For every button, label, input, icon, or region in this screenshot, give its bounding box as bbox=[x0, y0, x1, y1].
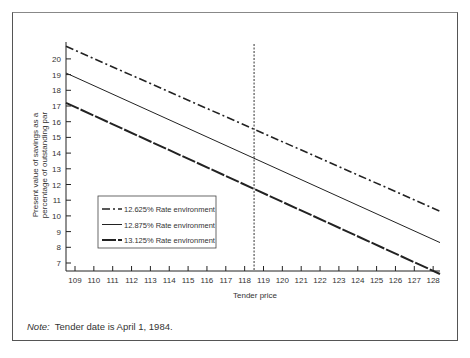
y-tick-label: 8 bbox=[57, 243, 62, 252]
x-tick-label: 115 bbox=[182, 276, 195, 285]
y-tick-label: 9 bbox=[57, 228, 62, 237]
x-tick-label: 118 bbox=[238, 276, 251, 285]
legend-label: 13.125% Rate environment bbox=[124, 236, 216, 245]
x-tick-label: 124 bbox=[351, 276, 365, 285]
y-axis-label: Present value of savings as a bbox=[31, 112, 40, 217]
x-tick-label: 114 bbox=[163, 276, 176, 285]
y-tick-label: 10 bbox=[52, 212, 61, 221]
y-tick-label: 19 bbox=[52, 71, 61, 80]
x-tick-label: 119 bbox=[257, 276, 270, 285]
x-tick-label: 116 bbox=[201, 276, 214, 285]
y-tick-label: 7 bbox=[57, 259, 62, 268]
x-tick-label: 123 bbox=[332, 276, 346, 285]
x-tick-label: 110 bbox=[87, 276, 100, 285]
note-label: Note: bbox=[27, 321, 50, 332]
x-tick-label: 112 bbox=[125, 276, 138, 285]
x-tick-label: 127 bbox=[408, 276, 422, 285]
x-axis-label: Tender price bbox=[233, 291, 278, 300]
y-tick-label: 16 bbox=[52, 118, 61, 127]
x-tick-label: 121 bbox=[295, 276, 309, 285]
y-tick-label: 13 bbox=[52, 165, 61, 174]
y-tick-label: 20 bbox=[52, 55, 61, 64]
x-tick-label: 125 bbox=[370, 276, 384, 285]
note: Note: Tender date is April 1, 1984. bbox=[27, 321, 173, 332]
y-tick-label: 11 bbox=[53, 196, 62, 205]
x-tick-label: 111 bbox=[107, 276, 120, 285]
note-text: Tender date is April 1, 1984. bbox=[55, 321, 173, 332]
x-tick-label: 122 bbox=[313, 276, 327, 285]
x-tick-label: 126 bbox=[389, 276, 403, 285]
legend-label: 12.875% Rate environment bbox=[124, 221, 216, 230]
y-tick-label: 15 bbox=[52, 133, 61, 142]
legend-label: 12.625% Rate environment bbox=[124, 205, 216, 214]
x-tick-label: 117 bbox=[219, 276, 232, 285]
x-tick-label: 128 bbox=[426, 276, 440, 285]
y-tick-label: 17 bbox=[52, 102, 61, 111]
y-tick-label: 14 bbox=[52, 149, 61, 158]
chart: 7891011121314151617181920109110111112113… bbox=[0, 0, 470, 358]
y-tick-label: 12 bbox=[52, 181, 61, 190]
y-axis-label: percentage of outstanding par bbox=[40, 112, 49, 219]
x-tick-label: 113 bbox=[144, 276, 157, 285]
x-tick-label: 109 bbox=[68, 276, 82, 285]
x-tick-label: 120 bbox=[276, 276, 290, 285]
y-tick-label: 18 bbox=[52, 86, 61, 95]
